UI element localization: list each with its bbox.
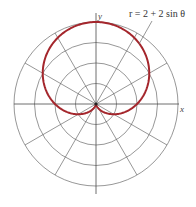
x-axis-label: x (179, 104, 184, 114)
polar-plot: x y r = 2 + 2 sin θ (0, 0, 196, 207)
grid-ray (55, 33, 96, 104)
label-leader-line (139, 21, 152, 44)
y-axis-label: y (97, 11, 102, 21)
grid-ray (25, 63, 96, 104)
grid-ray (96, 63, 167, 104)
equation-label: r = 2 + 2 sin θ (129, 8, 185, 19)
origin-point (94, 102, 97, 105)
grid-ray (25, 104, 96, 145)
grid-ray (96, 104, 167, 145)
grid-ray (96, 33, 137, 104)
